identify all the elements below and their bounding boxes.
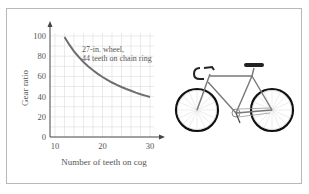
- x-tick-labels: 102030: [51, 141, 155, 151]
- svg-text:0: 0: [42, 132, 46, 142]
- annotation-line-2: 44 teeth on chain ring: [82, 54, 152, 63]
- bicycle-illustration: [176, 63, 293, 131]
- y-axis-label: Gear ratio: [20, 69, 30, 106]
- bicycle-frame: [197, 68, 272, 113]
- x-axis-label: Number of teeth on cog: [61, 157, 147, 167]
- gear-ratio-chart: 020406080100 102030 27-in. wheel, 44 tee…: [0, 0, 309, 194]
- svg-text:20: 20: [38, 112, 47, 122]
- svg-text:10: 10: [51, 141, 60, 151]
- annotation-line-1: 27-in. wheel,: [82, 45, 124, 54]
- svg-text:20: 20: [98, 141, 107, 151]
- saddle: [244, 63, 264, 67]
- svg-text:30: 30: [146, 141, 155, 151]
- chain-top: [238, 108, 270, 109]
- svg-text:40: 40: [38, 92, 47, 102]
- svg-text:100: 100: [33, 31, 46, 41]
- handlebar: [194, 67, 214, 79]
- svg-text:60: 60: [38, 71, 47, 81]
- svg-text:80: 80: [38, 51, 47, 61]
- chain-bottom: [238, 113, 270, 117]
- y-tick-labels: 020406080100: [33, 31, 46, 142]
